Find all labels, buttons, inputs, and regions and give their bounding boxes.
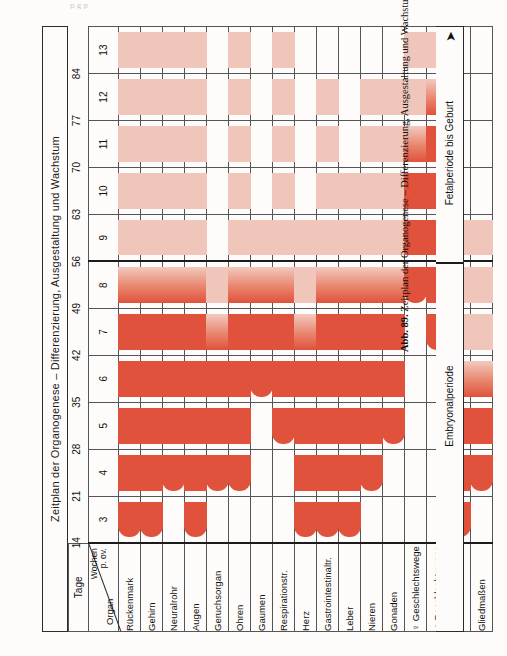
bar-segment — [360, 267, 383, 302]
figure-page: p g p Zeitplan der Organogenese – Differ… — [0, 0, 507, 656]
bar-segment — [140, 126, 163, 162]
bar-cell — [140, 308, 162, 355]
bar-cell — [382, 496, 404, 543]
bar-cell — [404, 496, 426, 543]
bar-segment — [184, 502, 207, 537]
bar-segment — [228, 408, 251, 444]
bar-cell — [294, 308, 316, 355]
period-embryonal: Embryonalperiode — [436, 263, 463, 549]
bar-segment — [294, 314, 317, 350]
day-tick-label: 14 — [70, 531, 81, 555]
bar-cell — [338, 74, 360, 121]
bar-cell — [184, 214, 206, 261]
bar-cell — [338, 121, 360, 168]
week-header-12: 12 — [88, 74, 118, 121]
bar-cell — [206, 496, 228, 543]
bar-segment — [338, 314, 361, 350]
figure-caption: Abb. 89. Zeitplan der Organogenese – Dif… — [399, 52, 410, 352]
bar-cell — [294, 402, 316, 449]
day-tick-label: 28 — [70, 437, 81, 461]
table-row: Ohren — [228, 27, 250, 632]
bar-cell — [250, 168, 272, 215]
bar-cell — [360, 121, 382, 168]
bar-segment — [316, 173, 339, 209]
bar-segment — [184, 314, 207, 350]
bar-segment — [338, 173, 361, 209]
bar-cell — [470, 214, 492, 261]
bar-segment — [360, 126, 383, 162]
bar-cell — [162, 355, 184, 402]
table-row: Rückenmark — [118, 27, 140, 632]
day-tick-label: 70 — [70, 156, 81, 180]
bar-segment — [140, 314, 163, 350]
bar-cell — [338, 261, 360, 308]
bar-segment — [118, 502, 141, 537]
bar-cell — [206, 27, 228, 74]
day-tick-label: 21 — [70, 484, 81, 508]
bar-segment — [272, 220, 295, 255]
bar-cell — [470, 74, 492, 121]
bar-segment — [118, 314, 141, 350]
bar-segment — [118, 361, 141, 397]
week-header-3: 3 — [88, 496, 118, 543]
bar-cell — [294, 27, 316, 74]
bar-segment — [360, 361, 383, 397]
organ-row-label: Herz — [294, 543, 316, 631]
figure-title: Zeitplan der Organogenese – Differenzier… — [49, 136, 61, 522]
bar-cell — [184, 261, 206, 308]
bar-cell — [250, 261, 272, 308]
bar-cell — [316, 74, 338, 121]
bar-segment — [272, 126, 295, 162]
bar-segment — [338, 267, 361, 302]
table-row: Augen — [184, 27, 206, 632]
organ-row-label: Gehirn — [140, 543, 162, 631]
bar-cell — [206, 168, 228, 215]
bar-cell — [250, 449, 272, 496]
bar-segment — [118, 126, 141, 162]
bar-segment — [206, 455, 229, 491]
bar-segment — [360, 220, 383, 255]
bar-cell — [272, 496, 294, 543]
day-tick-label: 35 — [70, 390, 81, 414]
bar-cell — [250, 355, 272, 402]
organ-row-label: Gaumen — [250, 543, 272, 631]
bar-segment — [382, 408, 405, 444]
bar-cell — [338, 496, 360, 543]
week-header-5: 5 — [88, 402, 118, 449]
bar-cell — [184, 449, 206, 496]
bar-segment — [360, 173, 383, 209]
bar-cell — [206, 355, 228, 402]
bar-segment — [294, 267, 317, 302]
bar-cell — [228, 121, 250, 168]
bar-cell — [404, 355, 426, 402]
organ-row-label: Ohren — [228, 543, 250, 631]
bar-cell — [338, 355, 360, 402]
bar-segment — [316, 361, 339, 397]
bar-segment — [162, 267, 185, 302]
caption-text: Zeitplan der Organogenese – Differenzier… — [399, 0, 410, 312]
bar-cell — [404, 449, 426, 496]
table-row: Gliedmaßen — [470, 27, 492, 632]
bar-segment — [184, 32, 207, 68]
bar-cell — [470, 261, 492, 308]
bar-cell — [316, 214, 338, 261]
bar-segment — [360, 79, 383, 115]
axis-corner: Wochen p. ov. Organ — [88, 543, 118, 631]
bar-segment — [162, 408, 185, 444]
bar-cell — [184, 402, 206, 449]
bar-cell — [140, 355, 162, 402]
table-row: Geruchsorgan — [206, 27, 228, 632]
bar-cell — [184, 121, 206, 168]
bar-cell — [228, 308, 250, 355]
bar-segment — [470, 408, 493, 444]
bar-segment — [184, 126, 207, 162]
bar-segment — [470, 455, 493, 491]
bar-segment — [360, 314, 383, 350]
bar-cell — [184, 496, 206, 543]
bar-segment — [184, 173, 207, 209]
bar-cell — [382, 449, 404, 496]
organ-row-label: ♀ Geschlechtswege — [404, 543, 426, 631]
bar-segment — [470, 361, 493, 397]
bar-cell — [118, 121, 140, 168]
bar-cell — [162, 214, 184, 261]
